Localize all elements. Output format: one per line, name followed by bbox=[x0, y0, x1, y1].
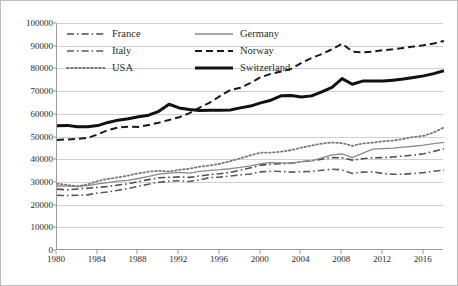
x-axis-tick bbox=[56, 250, 57, 254]
legend-swatch-france-icon bbox=[65, 28, 107, 40]
y-axis-tick-label: 20000 bbox=[31, 200, 54, 209]
y-axis-tick-label: 50000 bbox=[31, 132, 54, 141]
x-axis-tick-label: 1984 bbox=[88, 254, 106, 264]
legend-swatch-germany-icon bbox=[193, 28, 235, 40]
y-axis-tick bbox=[52, 181, 56, 182]
y-axis-tick bbox=[52, 68, 56, 69]
y-axis-tick-label: 80000 bbox=[31, 64, 54, 73]
y-axis-tick bbox=[52, 91, 56, 92]
legend-label: Germany bbox=[240, 28, 279, 39]
y-axis-tick bbox=[52, 204, 56, 205]
y-axis-tick-label: 40000 bbox=[31, 155, 54, 164]
legend-label: Switzerland bbox=[240, 62, 290, 73]
legend-entry-italy[interactable]: Italy bbox=[65, 45, 193, 57]
series-line-germany bbox=[57, 142, 444, 186]
chart-legend: FranceGermanyItalyNorwayUSASwitzerland bbox=[65, 25, 325, 76]
x-axis-tick-label: 1992 bbox=[169, 254, 187, 264]
legend-swatch-italy-icon bbox=[65, 45, 107, 57]
x-axis-tick bbox=[381, 250, 382, 254]
y-axis-tick-label: 100000 bbox=[26, 19, 53, 28]
x-axis-tick-label: 2008 bbox=[332, 254, 350, 264]
legend-entry-france[interactable]: France bbox=[65, 28, 193, 40]
y-axis-tick-label: 90000 bbox=[31, 41, 54, 50]
y-axis-tick bbox=[52, 23, 56, 24]
legend-entry-norway[interactable]: Norway bbox=[193, 45, 325, 57]
x-axis-tick bbox=[137, 250, 138, 254]
x-axis-tick-label: 1980 bbox=[47, 254, 65, 264]
y-axis-tick bbox=[52, 45, 56, 46]
y-axis-tick bbox=[52, 136, 56, 137]
y-axis-tick bbox=[52, 227, 56, 228]
y-axis-labels: 0100002000030000400005000060000700008000… bbox=[1, 23, 53, 250]
series-line-switzerland bbox=[57, 71, 444, 127]
x-axis-tick-label: 2000 bbox=[251, 254, 269, 264]
y-axis-tick bbox=[52, 113, 56, 114]
x-axis-tick bbox=[300, 250, 301, 254]
legend-swatch-usa-icon bbox=[65, 62, 107, 74]
y-axis-tick-label: 60000 bbox=[31, 109, 54, 118]
x-axis-tick-label: 2012 bbox=[373, 254, 391, 264]
legend-swatch-norway-icon bbox=[193, 45, 235, 57]
series-line-italy bbox=[57, 169, 444, 195]
x-axis-labels: 1980198419881992199620002004200820122016 bbox=[56, 254, 443, 272]
x-axis-tick bbox=[218, 250, 219, 254]
x-axis-tick bbox=[96, 250, 97, 254]
legend-entry-germany[interactable]: Germany bbox=[193, 28, 325, 40]
legend-entry-usa[interactable]: USA bbox=[65, 62, 193, 74]
y-axis-tick bbox=[52, 159, 56, 160]
y-axis-tick-label: 10000 bbox=[31, 223, 54, 232]
line-chart-figure: 0100002000030000400005000060000700008000… bbox=[0, 0, 458, 286]
x-axis-tick bbox=[341, 250, 342, 254]
x-axis-tick-label: 2004 bbox=[291, 254, 309, 264]
legend-label: Italy bbox=[112, 45, 131, 56]
legend-label: USA bbox=[112, 62, 133, 73]
x-axis-tick bbox=[178, 250, 179, 254]
legend-label: Norway bbox=[240, 45, 274, 56]
legend-label: France bbox=[112, 28, 141, 39]
x-axis-tick-label: 1996 bbox=[210, 254, 228, 264]
x-axis-tick-label: 1988 bbox=[128, 254, 146, 264]
legend-swatch-switzerland-icon bbox=[193, 62, 235, 74]
y-axis-tick-label: 70000 bbox=[31, 87, 54, 96]
legend-entry-switzerland[interactable]: Switzerland bbox=[193, 62, 325, 74]
x-axis-tick bbox=[422, 250, 423, 254]
y-axis-tick-label: 30000 bbox=[31, 177, 54, 186]
x-axis-tick bbox=[259, 250, 260, 254]
x-axis-tick-label: 2016 bbox=[414, 254, 432, 264]
